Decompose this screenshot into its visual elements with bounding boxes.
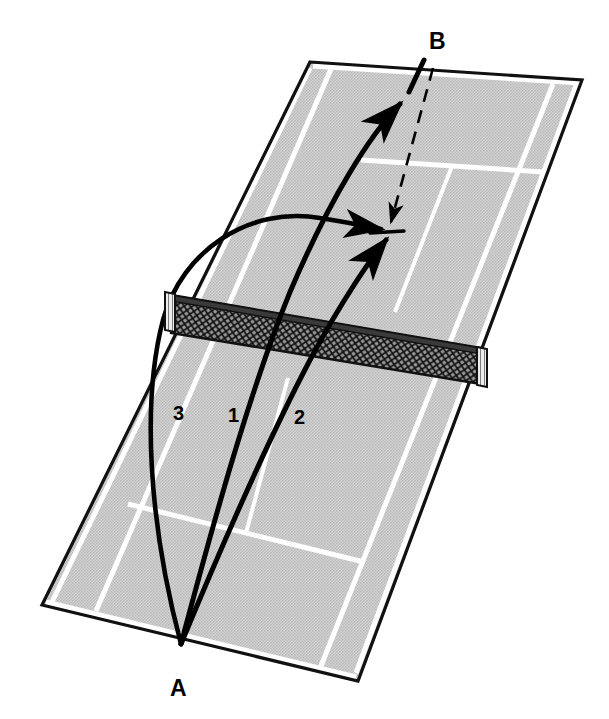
- net-post-right: [477, 347, 487, 387]
- court-surface: [42, 62, 582, 681]
- label-trajectory-2: 2: [294, 407, 305, 427]
- figure-root: B A 3 1 2: [0, 0, 609, 719]
- label-trajectory-3: 3: [173, 403, 184, 423]
- label-point-b: B: [429, 30, 446, 53]
- landing-tick-mark: [370, 231, 404, 233]
- tennis-court-illustration: [0, 0, 609, 719]
- label-point-a: A: [170, 677, 187, 700]
- court-surface-group: [42, 62, 582, 681]
- label-trajectory-1: 1: [228, 405, 239, 425]
- net-post-left: [165, 292, 175, 332]
